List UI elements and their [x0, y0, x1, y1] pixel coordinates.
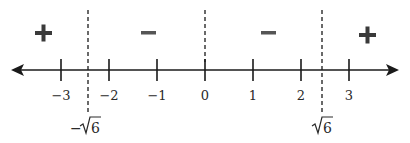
root-label-neg: − 6 — [70, 117, 101, 136]
tick-label: −1 — [147, 88, 166, 103]
tick-label: 0 — [201, 88, 209, 103]
sign-plus-right — [359, 27, 376, 44]
tick-label: −2 — [99, 88, 118, 103]
tick-label-group: −3−2−10123 — [51, 88, 353, 103]
root-label-pos-radicand: 6 — [323, 120, 332, 136]
tick-label: −3 — [51, 88, 70, 103]
sign-plus-left — [35, 25, 52, 42]
tick-label: 2 — [297, 88, 305, 103]
number-line-diagram: −3−2−10123 − 6 6 — [0, 0, 410, 143]
root-label-neg-prefix: − — [70, 120, 82, 136]
tick-label: 1 — [249, 88, 257, 103]
root-label-neg-radicand: 6 — [91, 120, 100, 136]
tick-label: 3 — [345, 88, 353, 103]
sign-minus-right — [261, 31, 276, 35]
root-label-pos: 6 — [312, 117, 333, 136]
sign-minus-left — [141, 31, 156, 35]
